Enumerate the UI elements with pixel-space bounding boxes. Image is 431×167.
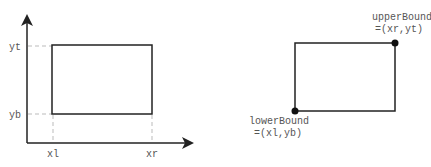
lower-bound-point xyxy=(292,108,299,115)
left-diagram: yt yb xl xr xyxy=(9,20,188,160)
label-xl: xl xyxy=(47,149,59,160)
upper-bound-label: upperBound xyxy=(372,12,431,23)
bounding-box-diagram: yt yb xl xr upperBound =(xr,yt) lowerBou… xyxy=(0,0,431,167)
lower-bound-label: lowerBound xyxy=(249,116,309,127)
right-diagram: upperBound =(xr,yt) lowerBound =(xl,yb) xyxy=(249,12,431,139)
label-yb: yb xyxy=(9,110,21,121)
upper-bound-value: =(xr,yt) xyxy=(375,24,423,35)
lower-bound-value: =(xl,yb) xyxy=(254,128,302,139)
upper-bound-point xyxy=(392,40,399,47)
rectangle xyxy=(52,45,152,114)
label-xr: xr xyxy=(146,149,158,160)
bounds-rectangle xyxy=(295,43,395,111)
label-yt: yt xyxy=(9,42,21,53)
